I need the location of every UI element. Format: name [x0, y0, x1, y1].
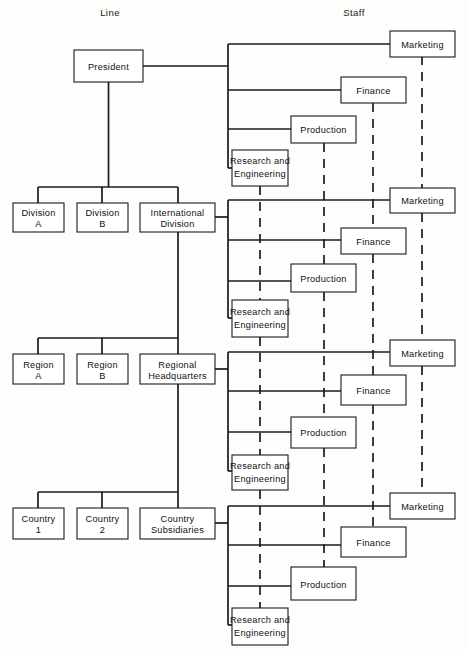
box-region-a-label-2: A — [35, 371, 42, 381]
box-finance-4-label: Finance — [356, 538, 390, 548]
box-research-engineering-3-label-1: Research and — [230, 461, 290, 471]
box-marketing-4-label: Marketing — [401, 502, 444, 512]
column-header-staff: Staff — [343, 7, 365, 18]
box-division-b-label-1: Division — [85, 208, 119, 218]
box-research-engineering-2-label-2: Engineering — [234, 320, 286, 330]
box-marketing-2-label: Marketing — [401, 196, 444, 206]
staff-connectors-regional — [215, 352, 390, 471]
box-division-b[interactable]: Division B — [77, 203, 128, 232]
box-president-label-1: President — [88, 62, 129, 72]
box-country-2[interactable]: Country 2 — [77, 508, 128, 539]
box-finance-1[interactable]: Finance — [341, 77, 406, 103]
box-country-1-label-1: Country — [22, 514, 56, 524]
column-header-line: Line — [100, 7, 120, 18]
box-country-2-label-1: Country — [86, 514, 120, 524]
staff-connectors-corporate — [143, 44, 390, 168]
box-marketing-3[interactable]: Marketing — [390, 340, 455, 366]
box-country-2-label-2: 2 — [100, 525, 105, 535]
box-country-1-label-2: 1 — [36, 525, 41, 535]
box-finance-2[interactable]: Finance — [341, 228, 406, 254]
box-marketing-3-label: Marketing — [401, 349, 444, 359]
box-research-engineering-3[interactable]: Research and Engineering — [230, 455, 290, 490]
box-research-engineering-2-label-1: Research and — [230, 307, 290, 317]
box-region-b-label-1: Region — [87, 360, 118, 370]
box-production-4-label: Production — [300, 580, 346, 590]
box-international-division-label-1: International — [151, 208, 205, 218]
box-research-engineering-1-label-1: Research and — [230, 156, 290, 166]
box-research-engineering-4-label-2: Engineering — [234, 628, 286, 638]
box-marketing-2[interactable]: Marketing — [390, 188, 455, 213]
line-hierarchy-connectors — [38, 82, 178, 508]
box-finance-1-label: Finance — [356, 86, 390, 96]
box-region-a[interactable]: Region A — [13, 354, 64, 384]
box-finance-3-label: Finance — [356, 386, 390, 396]
box-region-a-label-1: Region — [23, 360, 54, 370]
box-country-1[interactable]: Country 1 — [13, 508, 64, 539]
box-research-engineering-1[interactable]: Research and Engineering — [230, 150, 290, 186]
box-production-3-label: Production — [300, 428, 346, 438]
box-production-2-label: Production — [300, 274, 346, 284]
box-research-engineering-4[interactable]: Research and Engineering — [230, 608, 290, 645]
box-region-b[interactable]: Region B — [77, 354, 128, 384]
box-marketing-1[interactable]: Marketing — [390, 31, 455, 57]
box-division-a-label-2: A — [35, 219, 42, 229]
box-production-1[interactable]: Production — [291, 116, 356, 143]
box-finance-4[interactable]: Finance — [341, 527, 406, 557]
box-research-engineering-4-label-1: Research and — [230, 615, 290, 625]
box-research-engineering-3-label-2: Engineering — [234, 474, 286, 484]
box-finance-3[interactable]: Finance — [341, 375, 406, 405]
box-division-b-label-2: B — [99, 219, 105, 229]
box-finance-2-label: Finance — [356, 237, 390, 247]
box-regional-headquarters[interactable]: Regional Headquarters — [140, 354, 215, 384]
box-production-1-label: Production — [300, 125, 346, 135]
box-marketing-1-label: Marketing — [401, 40, 444, 50]
box-country-subsidiaries[interactable]: Country Subsidiaries — [140, 508, 215, 539]
box-marketing-4[interactable]: Marketing — [390, 493, 455, 519]
box-president[interactable]: President — [74, 50, 143, 82]
org-chart-diagram: Line Staff — [0, 0, 468, 649]
box-division-a[interactable]: Division A — [13, 203, 64, 232]
box-regional-headquarters-label-2: Headquarters — [148, 371, 207, 381]
box-research-engineering-1-label-2: Engineering — [234, 169, 286, 179]
box-regional-headquarters-label-1: Regional — [158, 360, 196, 370]
box-production-3[interactable]: Production — [291, 417, 356, 448]
box-international-division[interactable]: International Division — [140, 203, 215, 232]
box-international-division-label-2: Division — [160, 219, 194, 229]
staff-connectors-country — [215, 506, 390, 625]
org-chart-canvas: Line Staff — [0, 0, 468, 649]
box-country-subsidiaries-label-1: Country — [161, 514, 195, 524]
box-region-b-label-2: B — [99, 371, 105, 381]
box-research-engineering-2[interactable]: Research and Engineering — [230, 300, 290, 337]
box-country-subsidiaries-label-2: Subsidiaries — [151, 525, 204, 535]
box-division-a-label-1: Division — [21, 208, 55, 218]
box-production-2[interactable]: Production — [291, 264, 356, 292]
box-production-4[interactable]: Production — [291, 567, 356, 600]
